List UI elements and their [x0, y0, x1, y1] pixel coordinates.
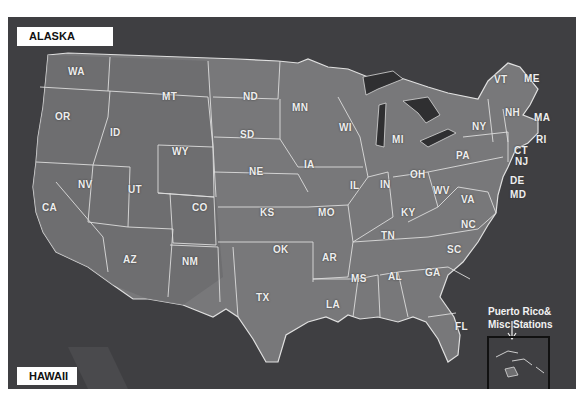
state-tn[interactable]: TN [381, 230, 395, 241]
state-mo[interactable]: MO [318, 207, 335, 218]
state-wy[interactable]: WY [172, 146, 189, 157]
state-or[interactable]: OR [55, 111, 71, 122]
state-ga[interactable]: GA [425, 267, 441, 278]
state-wi[interactable]: WI [339, 122, 352, 133]
state-ri[interactable]: RI [536, 134, 547, 145]
state-ms[interactable]: MS [351, 273, 367, 284]
state-nj[interactable]: NJ [515, 156, 528, 167]
state-nc[interactable]: NC [461, 219, 476, 230]
state-nv[interactable]: NV [78, 179, 93, 190]
state-sd[interactable]: SD [240, 129, 255, 140]
state-ny[interactable]: NY [472, 121, 487, 132]
state-tx[interactable]: TX [256, 292, 269, 303]
state-ok[interactable]: OK [273, 244, 289, 255]
state-ut[interactable]: UT [128, 184, 142, 195]
puerto-rico-label-line2: Misc Stations [488, 318, 552, 331]
state-vt[interactable]: VT [494, 74, 507, 85]
state-nm[interactable]: NM [182, 256, 198, 267]
state-nd[interactable]: ND [243, 91, 258, 102]
puerto-rico-inset-box[interactable] [487, 336, 550, 389]
state-sc[interactable]: SC [447, 244, 462, 255]
puerto-rico-label-line1: Puerto Rico& [488, 305, 552, 318]
state-co[interactable]: CO [192, 202, 208, 213]
state-ct[interactable]: CT [514, 145, 528, 156]
state-ne[interactable]: NE [249, 166, 264, 177]
state-wv[interactable]: WV [433, 185, 450, 196]
alaska-inset-label[interactable]: ALASKA [17, 27, 113, 46]
us-state-map[interactable]: WAORIDMTWYNVUTCACOAZNMNDSDNEKSOKTXMNIAMO… [8, 17, 576, 389]
map-graphic [8, 17, 576, 389]
state-de[interactable]: DE [510, 175, 525, 186]
state-ar[interactable]: AR [322, 252, 337, 263]
state-oh[interactable]: OH [410, 169, 426, 180]
hawaii-inset-label[interactable]: HAWAII [17, 367, 77, 385]
state-ks[interactable]: KS [260, 207, 275, 218]
state-wa[interactable]: WA [68, 66, 85, 77]
state-ma[interactable]: MA [534, 112, 550, 123]
state-al[interactable]: AL [388, 271, 402, 282]
state-me[interactable]: ME [524, 73, 540, 84]
state-id[interactable]: ID [110, 127, 121, 138]
state-pa[interactable]: PA [456, 150, 470, 161]
state-la[interactable]: LA [326, 299, 340, 310]
state-fl[interactable]: FL [455, 321, 468, 332]
state-ia[interactable]: IA [304, 159, 315, 170]
puerto-rico-inset-label[interactable]: Puerto Rico& Misc Stations [488, 305, 552, 331]
state-il[interactable]: IL [350, 180, 360, 191]
state-md[interactable]: MD [510, 189, 526, 200]
state-mt[interactable]: MT [162, 91, 177, 102]
state-nh[interactable]: NH [505, 107, 520, 118]
state-az[interactable]: AZ [123, 254, 137, 265]
state-in[interactable]: IN [380, 179, 391, 190]
state-va[interactable]: VA [461, 194, 475, 205]
state-ky[interactable]: KY [401, 207, 416, 218]
state-mi[interactable]: MI [392, 134, 404, 145]
state-mn[interactable]: MN [292, 102, 308, 113]
state-ca[interactable]: CA [42, 202, 57, 213]
